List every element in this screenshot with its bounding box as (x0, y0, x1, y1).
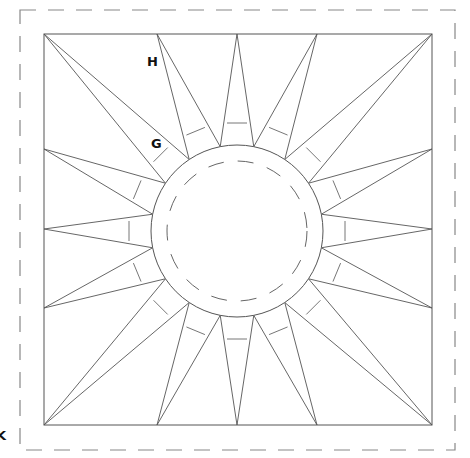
label-K: K (0, 428, 7, 443)
center-circle (151, 145, 323, 317)
label-G: G (151, 136, 162, 151)
compass-diagram: H G K (0, 0, 470, 458)
label-H: H (147, 54, 158, 69)
